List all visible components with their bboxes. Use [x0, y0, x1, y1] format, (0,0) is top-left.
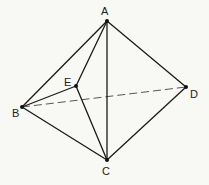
vertex-label-e: E [64, 76, 71, 88]
vertex-point-a [105, 19, 109, 23]
vertex-point-c [105, 158, 109, 162]
vertex-point-e [74, 84, 78, 88]
edge-ad [107, 21, 186, 87]
vertices [20, 19, 188, 162]
edge-ab [22, 21, 107, 107]
vertex-point-b [20, 105, 24, 109]
vertex-label-a: A [101, 5, 109, 17]
vertex-labels: A B C D E [12, 5, 198, 177]
vertex-label-c: C [102, 165, 110, 177]
geometric-diagram: A B C D E [0, 0, 209, 185]
edge-ce [76, 86, 107, 160]
vertex-point-d [184, 85, 188, 89]
edge-cd [107, 87, 186, 160]
vertex-label-d: D [190, 88, 198, 100]
solid-edges [22, 21, 186, 160]
vertex-label-b: B [12, 107, 19, 119]
edge-bc [22, 107, 107, 160]
edge-ae [76, 21, 107, 86]
